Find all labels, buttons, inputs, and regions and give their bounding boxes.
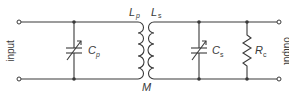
inductor-ls-icon: [148, 22, 154, 79]
circuit-diagram: input output C p C s R c L p L s M: [0, 0, 289, 94]
input-terminal-bottom: [17, 77, 21, 81]
variable-capacitor-cp-icon: [66, 22, 82, 79]
ls-subscript: s: [158, 12, 162, 19]
mutual-inductance-label: M: [142, 81, 152, 93]
cs-label: C: [212, 44, 220, 56]
lp-label: L: [129, 6, 135, 18]
input-terminal-top: [17, 20, 21, 24]
lp-subscript: p: [135, 12, 140, 20]
resistor-rc-icon: [243, 22, 251, 79]
variable-capacitor-cs-icon: [191, 22, 207, 79]
inductor-lp-icon: [138, 22, 144, 79]
output-terminal-top: [277, 20, 281, 24]
output-label: output: [282, 37, 289, 65]
input-label: input: [5, 40, 16, 62]
rc-label: R: [255, 44, 263, 56]
rc-subscript: c: [263, 51, 267, 58]
output-terminal-bottom: [277, 77, 281, 81]
primary-circuit: [17, 20, 144, 81]
ls-label: L: [151, 6, 157, 18]
cp-label: C: [88, 44, 96, 56]
cs-subscript: s: [220, 51, 224, 58]
cp-subscript: p: [95, 51, 100, 59]
